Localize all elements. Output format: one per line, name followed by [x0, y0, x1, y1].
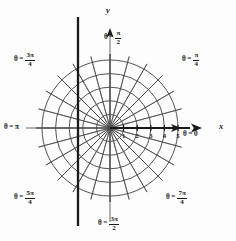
ray-label-theta-pi-4: θ=π4 [182, 52, 199, 68]
fraction-denominator: 2 [112, 225, 116, 233]
theta-symbol: θ [98, 220, 102, 227]
angle-fraction: π2 [115, 30, 121, 46]
fraction-denominator: 4 [180, 199, 184, 207]
equals-sign: = [19, 56, 23, 63]
ray-label-theta-3pi-4: θ=3π4 [14, 52, 35, 68]
theta-symbol: θ [182, 56, 186, 63]
radial-tick-label: 2 [133, 132, 141, 139]
ray-label-theta-pi: θ=π [4, 124, 19, 131]
theta-symbol: θ [183, 131, 187, 138]
equals-sign: = [9, 124, 13, 131]
radial-tick-label: 1 [120, 132, 128, 139]
polar-grid-figure: 12345 y x θ=0θ=π4θ=π2θ=3π4θ=πθ=5π4θ=3π2θ… [0, 0, 236, 241]
ray-label-theta-pi-2: θ=π2 [104, 30, 121, 46]
radial-tick-label: 4 [160, 132, 168, 139]
equals-sign: = [171, 194, 175, 201]
radial-tick-label: 5 [174, 132, 182, 139]
ray-label-theta-3pi-2: θ=3π2 [98, 216, 119, 232]
equals-sign: = [103, 220, 107, 227]
angle-fraction: 3π4 [25, 52, 34, 68]
equals-sign: = [188, 131, 192, 138]
ray-label-theta-0: θ=0 [183, 131, 197, 138]
theta-symbol: θ [14, 194, 18, 201]
angle-fraction: π4 [193, 52, 199, 68]
fraction-denominator: 4 [28, 61, 32, 69]
fraction-denominator: 4 [195, 61, 199, 69]
ray-label-theta-5pi-4: θ=5π4 [14, 190, 35, 206]
theta-symbol: θ [14, 56, 18, 63]
angle-value: 0 [194, 131, 198, 138]
angle-value: π [15, 124, 19, 131]
angle-fraction: 7π4 [177, 190, 186, 206]
equals-sign: = [19, 194, 23, 201]
equals-sign: = [187, 56, 191, 63]
x-axis-label: x [219, 122, 223, 131]
theta-symbol: θ [104, 34, 108, 41]
fraction-denominator: 2 [117, 39, 121, 47]
theta-symbol: θ [4, 124, 8, 131]
radial-tick-label: 3 [147, 132, 155, 139]
equals-sign: = [109, 34, 113, 41]
y-axis-label: y [106, 6, 110, 15]
angle-fraction: 3π2 [109, 216, 118, 232]
ray-label-theta-7pi-4: θ=7π4 [166, 190, 187, 206]
angle-fraction: 5π4 [25, 190, 34, 206]
theta-symbol: θ [166, 194, 170, 201]
fraction-denominator: 4 [28, 199, 32, 207]
